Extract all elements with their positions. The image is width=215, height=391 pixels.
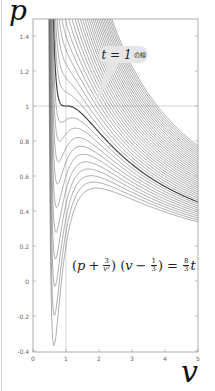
y-tick-label: 0.4 [19, 208, 29, 215]
y-tick-label: 1 [25, 103, 29, 110]
eq-frac-3-over-v2: 3 v² [103, 258, 110, 273]
isotherm-curve [44, 0, 198, 200]
x-tick-label: 1 [64, 355, 68, 362]
x-tick-label: 0 [31, 355, 35, 362]
isotherm-curve [44, 0, 198, 152]
isotherm-curve [44, 0, 198, 172]
y-tick-label: 0.2 [19, 243, 29, 250]
callout-main-text: t = 1 [101, 48, 131, 62]
eq-v: v [125, 258, 132, 273]
y-tick-label: 0 [25, 278, 29, 285]
eq-frac-1-over-3: 1 3 [151, 258, 157, 273]
x-tick-label: 3 [130, 355, 134, 362]
x-tick-label: 2 [97, 355, 101, 362]
isotherm-curve [44, 0, 198, 196]
isotherm-curve [44, 0, 198, 208]
eq-p: p [77, 258, 85, 273]
isotherm-curve [44, 0, 198, 204]
eq-paren: ) [111, 258, 116, 273]
eq-minus: − [136, 258, 147, 273]
isotherm-curve [44, 0, 198, 166]
x-tick-label: 4 [163, 355, 167, 362]
y-tick-label: 0.6 [19, 173, 29, 180]
t1-callout: t = 1 の線 [99, 46, 148, 63]
eq-t: t [190, 258, 195, 273]
callout-suffix: の線 [134, 50, 146, 59]
isotherm-curve [44, 0, 198, 194]
frac-den: 3 [152, 266, 156, 273]
x-axis-label: v [181, 354, 198, 389]
y-tick-label: 0.8 [19, 138, 29, 145]
frac-den: v² [103, 266, 110, 273]
y-tick-label: -0.2 [17, 313, 29, 320]
y-axis-label: p [9, 0, 27, 27]
eq-frac-8-over-3: 8 3 [183, 258, 189, 273]
isotherm-curve [44, 0, 198, 188]
isotherm-curve [44, 0, 198, 259]
chart-frame: -0.4-0.200.20.40.60.811.21.4012345 p v t… [0, 0, 215, 391]
y-tick-label: 1.4 [19, 33, 29, 40]
y-tick-label: 1.2 [19, 68, 29, 75]
eq-equals: = [167, 258, 178, 273]
isotherm-curve [44, 0, 198, 210]
eq-plus: + [88, 258, 99, 273]
isotherm-curve [44, 0, 198, 146]
eq-paren: ) [158, 258, 163, 273]
vdw-equation: ( p + 3 v² ) ( v − 1 3 ) = 8 3 t [72, 258, 196, 273]
y-tick-label: -0.4 [17, 348, 29, 355]
frac-den: 3 [184, 266, 188, 273]
